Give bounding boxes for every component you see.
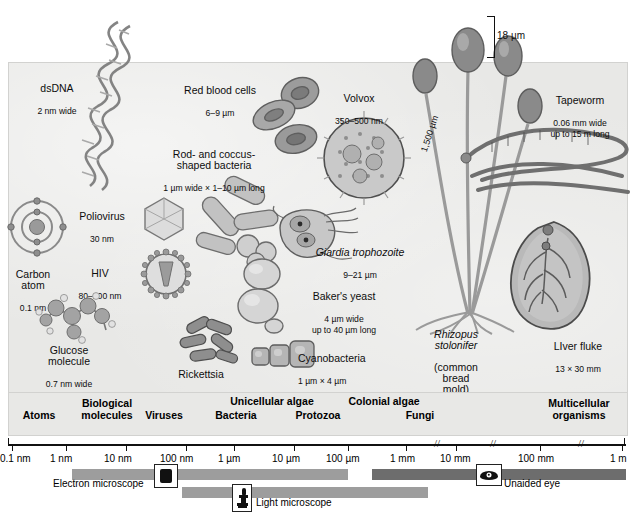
axis-tick-label: 100 nm	[160, 453, 193, 464]
specimen-label-rhizopus: Rhizopus stolonifer (common bread mold)	[418, 318, 494, 395]
axis-break: //	[578, 437, 584, 449]
category-viruses: Viruses	[128, 410, 200, 422]
axis-break: //	[490, 437, 496, 449]
scale-axis	[8, 444, 626, 446]
specimen-label-giardia: Giardia trophozoite 9–21 µm	[300, 236, 420, 280]
specimen-label-poliovirus: Poliovirus 30 nm	[62, 200, 142, 244]
specimen-name: HIV	[91, 267, 109, 279]
axis-tick-label: 10 mm	[440, 453, 471, 464]
specimen-label-dsdna: dsDNA 2 nm wide	[22, 72, 92, 116]
specimen-name: Volvox	[344, 92, 375, 104]
specimen-label-tapeworm: Tapeworm 0.06 mm wide up to 15 m long	[528, 84, 632, 139]
category-unicellular-algae: Unicellular algae	[212, 396, 332, 408]
specimen-size: 1 µm × 4 µm	[298, 376, 346, 386]
specimen-size: 30 nm	[90, 234, 114, 244]
carbon-atom-illustration	[8, 198, 66, 256]
category-multicellular-organisms: Multicellular organisms	[532, 398, 626, 421]
specimen-size: 0.06 mm wide up to 15 m long	[550, 118, 609, 139]
specimen-label-bakers-yeast: Baker's yeast 4 µm wide up to 40 µm long	[292, 280, 396, 335]
specimen-size: 13 × 30 mm	[555, 364, 601, 374]
specimen-size: 9–21 µm	[343, 270, 377, 280]
unaided-eye-label: Unaided eye	[504, 478, 560, 489]
axis-tick	[126, 444, 127, 451]
liver-fluke-illustration	[498, 218, 604, 336]
axis-tick	[234, 444, 235, 451]
spore-scale-label: 18 µm	[497, 30, 525, 41]
specimen-name: Baker's yeast	[313, 290, 376, 302]
specimen-label-cyanobacteria: Cyanobacteria 1 µm × 4 µm	[298, 342, 394, 386]
axis-endcap-right	[624, 438, 625, 445]
specimen-label-glucose: Glucose molecule 0.7 nm wide	[26, 334, 112, 389]
unaided-eye-icon-box	[476, 464, 502, 486]
specimen-name: Red blood cells	[184, 84, 256, 96]
spore-scale-bracket	[487, 16, 495, 58]
axis-tick-label: 1 mm	[390, 453, 415, 464]
specimen-size: (common bread mold)	[434, 361, 478, 395]
electron-microscope-icon-box	[154, 464, 178, 488]
category-atoms: Atoms	[8, 410, 70, 422]
light-microscope-label: Light microscope	[256, 497, 332, 508]
category-bacteria: Bacteria	[198, 410, 274, 422]
specimen-size: 2 nm wide	[37, 106, 76, 116]
category-fungi: Fungi	[388, 410, 452, 422]
axis-tick	[456, 444, 457, 451]
specimen-label-red-blood-cells: Red blood cells 6–9 µm	[176, 74, 264, 118]
specimen-label-liver-fluke: LIver fluke 13 × 30 mm	[530, 330, 626, 374]
hiv-illustration	[140, 248, 192, 300]
axis-tick	[622, 444, 623, 451]
axis-tick-label: 100 mm	[518, 453, 554, 464]
specimen-label-rod-coccus-bacteria: Rod- and coccus- shaped bacteria 1 µm wi…	[152, 138, 276, 193]
specimen-name: Rod- and coccus- shaped bacteria	[173, 148, 255, 171]
axis-tick-label: 1 µm	[218, 453, 240, 464]
axis-tick-label: 10 nm	[104, 453, 132, 464]
light-microscope-icon	[236, 488, 249, 508]
specimen-size: 0.7 nm wide	[46, 379, 92, 389]
axis-tick-label: 10 µm	[272, 453, 300, 464]
axis-tick	[12, 444, 13, 451]
axis-tick	[348, 444, 349, 451]
specimen-name: Giardia trophozoite	[316, 246, 405, 258]
specimen-label-volvox: Volvox 350–500 nm	[318, 82, 400, 126]
specimen-name: LIver fluke	[554, 340, 602, 352]
axis-tick	[186, 444, 187, 451]
axis-tick	[66, 444, 67, 451]
axis-break: //	[434, 437, 440, 449]
axis-tick	[406, 444, 407, 451]
axis-tick-label: 0.1 nm	[0, 453, 31, 464]
eye-icon	[480, 471, 498, 480]
electron-microscope-label: Electron microscope	[53, 478, 144, 489]
axis-endcap-left	[8, 438, 9, 445]
specimen-size: 1 µm wide × 1–10 µm long	[163, 183, 264, 193]
specimen-name: dsDNA	[40, 82, 73, 94]
axis-tick-label: 1 m	[610, 453, 627, 464]
specimen-name: Poliovirus	[79, 210, 125, 222]
electron-microscope-icon	[160, 469, 172, 483]
specimen-size: 6–9 µm	[206, 108, 235, 118]
specimen-name: Rhizopus stolonifer	[434, 328, 478, 351]
axis-tick-label: 1 nm	[50, 453, 72, 464]
category-colonial-algae: Colonial algae	[328, 396, 440, 408]
axis-tick-label: 100 µm	[326, 453, 360, 464]
specimen-name: Glucose molecule	[48, 344, 90, 367]
specimen-size: 350–500 nm	[335, 116, 383, 126]
axis-tick	[540, 444, 541, 451]
axis-tick	[294, 444, 295, 451]
specimen-size: 4 µm wide up to 40 µm long	[312, 314, 376, 335]
light-microscope-icon-box	[232, 484, 252, 512]
specimen-name: Tapeworm	[556, 94, 604, 106]
category-protozoa: Protozoa	[278, 410, 358, 422]
specimen-name: Cyanobacteria	[298, 352, 366, 364]
specimen-name: Rickettsia	[178, 368, 224, 380]
poliovirus-illustration	[142, 196, 186, 242]
